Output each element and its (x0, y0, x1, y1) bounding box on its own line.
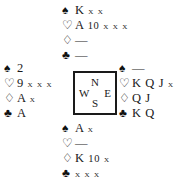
west-heart-row: ♡ 9 x x x (4, 76, 52, 91)
diamond-icon: ♢ (62, 151, 74, 166)
south-hearts: — (74, 136, 88, 151)
south-diamonds: K 10 x (74, 151, 110, 166)
south-diamond-row: ♢ K 10 x (62, 151, 110, 166)
heart-icon: ♡ (62, 18, 74, 33)
heart-icon: ♡ (119, 76, 131, 91)
west-diamond-row: ♢ A x (4, 91, 52, 106)
hand-north: ♠ K x x ♡ A 10 x x x ♢ — ♣ — (62, 3, 128, 63)
south-heart-row: ♡ — (62, 136, 110, 151)
north-spades: K x x (74, 3, 104, 18)
diamond-icon: ♢ (4, 91, 16, 106)
north-diamond-row: ♢ — (62, 33, 128, 48)
south-club-row: ♣ x x x (62, 166, 110, 181)
club-icon: ♣ (62, 48, 74, 63)
club-icon: ♣ (4, 106, 16, 121)
west-clubs: A (16, 106, 27, 121)
south-spade-row: ♠ A x (62, 121, 110, 136)
spade-icon: ♠ (62, 121, 74, 136)
diamond-icon: ♢ (62, 33, 74, 48)
spade-icon: ♠ (119, 61, 131, 76)
east-diamond-row: ♢ Q J (119, 91, 174, 106)
hand-south: ♠ A x ♡ — ♢ K 10 x ♣ x x x (62, 121, 110, 181)
hand-west: ♠ 2 ♡ 9 x x x ♢ A x ♣ A (4, 61, 52, 121)
north-spade-row: ♠ K x x (62, 3, 128, 18)
north-diamonds: — (74, 33, 88, 48)
spade-icon: ♠ (4, 61, 16, 76)
east-diamonds: Q J (131, 91, 151, 106)
north-hearts: A 10 x x x (74, 18, 128, 33)
west-club-row: ♣ A (4, 106, 52, 121)
diamond-icon: ♢ (119, 91, 131, 106)
east-club-row: ♣ K Q (119, 106, 174, 121)
east-clubs: K Q (131, 106, 155, 121)
south-spades: A x (74, 121, 93, 136)
compass-south-label: S (75, 98, 115, 109)
spade-icon: ♠ (62, 3, 74, 18)
club-icon: ♣ (119, 106, 131, 121)
east-hearts: K Q J x (131, 76, 174, 91)
compass-box: N W E S (73, 71, 117, 115)
west-hearts: 9 x x x (16, 76, 52, 91)
heart-icon: ♡ (62, 136, 74, 151)
hand-east: ♠ — ♡ K Q J x ♢ Q J ♣ K Q (119, 61, 174, 121)
heart-icon: ♡ (4, 76, 16, 91)
club-icon: ♣ (62, 166, 74, 181)
north-heart-row: ♡ A 10 x x x (62, 18, 128, 33)
east-spades: — (131, 61, 145, 76)
bridge-deal-diagram: ♠ K x x ♡ A 10 x x x ♢ — ♣ — ♠ 2 ♡ 9 x x… (0, 0, 192, 187)
south-clubs: x x x (74, 166, 100, 181)
east-heart-row: ♡ K Q J x (119, 76, 174, 91)
west-spade-row: ♠ 2 (4, 61, 52, 76)
north-clubs: — (74, 48, 88, 63)
west-diamonds: A x (16, 91, 35, 106)
west-spades: 2 (16, 61, 24, 76)
east-spade-row: ♠ — (119, 61, 174, 76)
